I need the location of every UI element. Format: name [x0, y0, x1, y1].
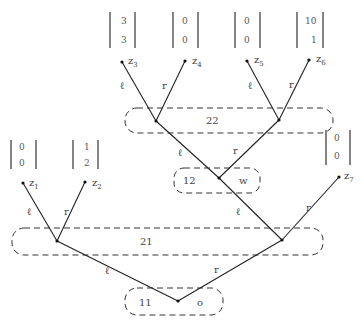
node-21-left: [55, 239, 58, 242]
svg-text:r: r: [289, 79, 294, 90]
svg-text:0: 0: [244, 35, 250, 45]
info-set-label-22: 22: [206, 115, 219, 126]
terminal-z2: [83, 180, 86, 183]
tree-nodes: [21, 58, 340, 302]
svg-text:ℓ: ℓ: [248, 80, 253, 91]
svg-text:ℓ: ℓ: [27, 206, 32, 217]
node-root: [176, 299, 179, 302]
info-set-label-12: 12: [183, 175, 196, 186]
info-set-extra-o: o: [197, 297, 203, 308]
svg-text:r: r: [214, 264, 219, 275]
svg-text:0: 0: [19, 142, 25, 152]
tree-edges: [23, 60, 339, 301]
payoff-z1: 0 0: [11, 140, 36, 169]
svg-text:1: 1: [311, 35, 317, 45]
terminal-z6: [307, 58, 310, 61]
svg-text:2: 2: [84, 158, 90, 168]
svg-text:z3: z3: [128, 55, 138, 69]
info-set-label-11: 11: [139, 297, 152, 308]
payoff-z7: 0 0: [326, 130, 350, 165]
payoff-z5: 0 0: [235, 12, 260, 48]
node-12: [217, 176, 220, 179]
terminal-z7: [337, 175, 340, 178]
payoff-z6: 10 1: [297, 12, 323, 48]
terminal-labels: z1 z2 z3 z4 z5 z6 z7: [29, 53, 354, 191]
terminal-z3: [120, 60, 123, 63]
svg-text:0: 0: [182, 35, 188, 45]
svg-text:z5: z5: [254, 54, 264, 68]
svg-text:10: 10: [305, 16, 317, 26]
svg-text:0: 0: [334, 133, 340, 143]
node-21-right: [280, 238, 283, 241]
svg-text:0: 0: [19, 158, 25, 168]
svg-text:0: 0: [182, 16, 188, 26]
node-22-right: [277, 118, 280, 121]
node-22-left: [154, 119, 157, 122]
svg-text:1: 1: [84, 142, 90, 152]
svg-text:ℓ: ℓ: [105, 265, 110, 276]
payoff-z4: 0 0: [173, 12, 198, 48]
svg-text:z6: z6: [316, 53, 326, 67]
svg-text:ℓ: ℓ: [178, 147, 183, 158]
info-set-label-21: 21: [140, 236, 153, 247]
svg-text:z7: z7: [344, 170, 354, 184]
game-tree-diagram: 11 o 21 22 12 w ℓ r ℓ r ℓ r ℓ r ℓ r ℓ r …: [0, 0, 363, 324]
svg-text:0: 0: [244, 16, 250, 26]
payoff-z2: 1 2: [73, 140, 98, 169]
terminal-z1: [21, 181, 24, 184]
svg-text:0: 0: [334, 151, 340, 161]
svg-text:z2: z2: [92, 177, 102, 191]
svg-text:r: r: [64, 206, 69, 217]
info-set-extra-w: w: [239, 175, 248, 186]
svg-text:z4: z4: [192, 55, 202, 69]
svg-text:ℓ: ℓ: [120, 80, 125, 91]
svg-text:z1: z1: [29, 177, 39, 191]
svg-text:ℓ: ℓ: [236, 206, 241, 217]
edge-labels: ℓ r ℓ r ℓ r ℓ r ℓ r ℓ r: [27, 79, 311, 276]
terminal-z4: [183, 59, 186, 62]
svg-text:r: r: [233, 145, 238, 156]
svg-text:r: r: [162, 80, 167, 91]
payoff-z3: 3 3: [110, 12, 135, 48]
terminal-z5: [245, 59, 248, 62]
svg-text:3: 3: [121, 35, 127, 45]
svg-text:3: 3: [121, 16, 127, 26]
svg-text:r: r: [306, 202, 311, 213]
